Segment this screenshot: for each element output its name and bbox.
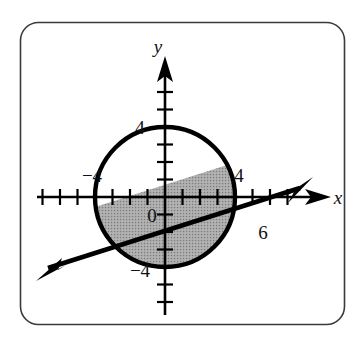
figure-frame [21, 23, 345, 325]
x-tick-label-6: 6 [258, 222, 268, 243]
y-tick-label-4: 4 [135, 117, 145, 138]
x-tick-label-neg4: −4 [82, 165, 103, 186]
coordinate-plane-graphic: y x 0 −4 4 6 4 −4 [0, 0, 359, 341]
x-tick-label-4: 4 [234, 165, 244, 186]
figure-container: y x 0 −4 4 6 4 −4 [0, 0, 359, 341]
y-tick-label-neg4: −4 [130, 260, 151, 281]
x-axis-label: x [333, 187, 343, 208]
y-axis-label: y [152, 36, 163, 57]
origin-label: 0 [147, 205, 157, 226]
